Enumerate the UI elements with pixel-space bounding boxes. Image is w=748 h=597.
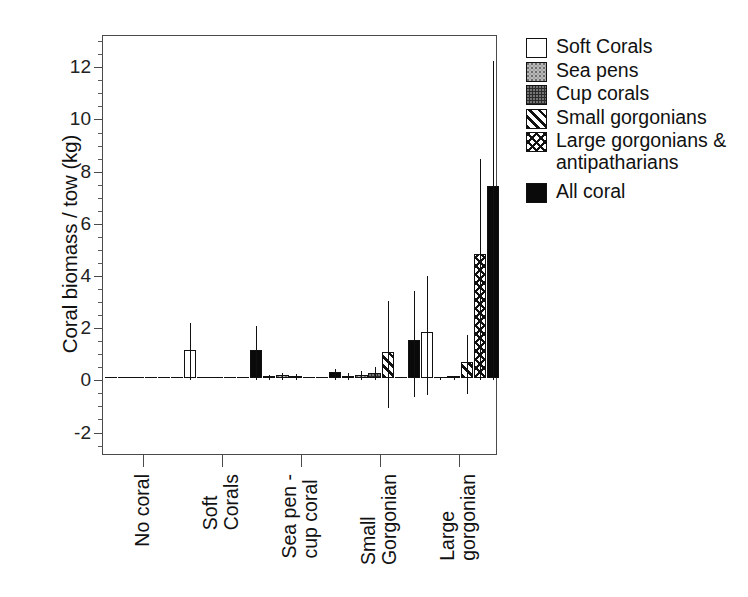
legend-item: Sea pens [526,60,741,82]
y-tick-minor [98,41,103,42]
bar [118,377,131,378]
y-tick-major [94,380,103,381]
y-tick-major [94,172,103,173]
y-tick-minor [98,80,103,81]
error-bar [282,373,283,381]
x-tick-label: Sea pen -cup coral [279,474,321,559]
x-tick [380,454,381,467]
y-tick-minor [98,263,103,264]
y-tick-minor [98,446,103,447]
coral-biomass-chart: Coral biomass / tow (kg) -2024681012 No … [0,0,748,597]
legend-item: Large gorgonians & antipatharians [526,130,741,174]
plot-area: -2024681012 No coralSoftCoralsSea pen -c… [102,35,497,455]
x-tick [143,454,144,467]
y-tick-minor [98,302,103,303]
y-tick-minor [98,289,103,290]
y-tick-minor [98,106,103,107]
bar [197,377,210,378]
legend-label: All coral [556,181,625,203]
bar [105,377,118,378]
y-tick-major [94,67,103,68]
legend-item: All coral [526,181,741,203]
legend-item: Small gorgonians [526,107,741,129]
y-tick-minor [98,146,103,147]
y-tick-label: 4 [80,265,91,287]
bar [303,377,316,378]
error-bar [375,367,376,380]
y-tick-label: 8 [80,161,91,183]
x-tick-label: SmallGorgonian [358,474,400,565]
error-bar [190,323,191,380]
bar [395,377,408,378]
diagonal-hatch-square-icon [526,109,547,129]
error-bar [335,369,336,380]
error-bar [480,159,481,381]
y-tick-label: 12 [70,56,91,78]
bar [171,377,184,378]
y-tick-minor [98,54,103,55]
legend-label: Soft Corals [556,36,652,58]
bar [131,377,144,378]
y-tick-label: 0 [80,369,91,391]
x-tick [222,454,223,467]
y-tick-major [94,276,103,277]
legend-label: Small gorgonians [556,107,707,129]
y-tick-label: -2 [74,422,91,444]
error-bar [256,326,257,381]
error-bar [440,378,441,381]
error-bar [454,376,455,380]
error-bar [493,61,494,381]
bar [224,377,237,378]
y-tick-label: 6 [80,213,91,235]
y-tick-label: 2 [80,317,91,339]
x-tick-label: Largegorgonian [437,474,479,561]
white-square-icon [526,38,547,58]
bar [210,377,223,378]
y-tick-minor [98,354,103,355]
dark-stipple-square-icon [526,85,547,105]
legend: Soft CoralsSea pensCup coralsSmall gorgo… [526,36,741,204]
y-tick-minor [98,159,103,160]
y-tick-minor [98,341,103,342]
bar [158,377,171,378]
x-tick-label: No coral [132,474,153,547]
y-tick-minor [98,211,103,212]
y-tick-minor [98,419,103,420]
y-tick-minor [98,315,103,316]
y-tick-major [94,433,103,434]
y-tick-minor [98,133,103,134]
cross-hatch-square-icon [526,132,547,152]
error-bar [388,301,389,408]
bar [316,377,329,378]
x-tick [301,454,302,467]
legend-label: Large gorgonians & antipatharians [556,130,726,174]
legend-label: Sea pens [556,60,638,82]
y-tick-minor [98,393,103,394]
legend-item: Cup corals [526,83,741,105]
error-bar [414,291,415,396]
y-tick-minor [98,406,103,407]
y-tick-major [94,328,103,329]
y-tick-major [94,119,103,120]
black-square-icon [526,183,547,203]
error-bar [361,371,362,380]
y-tick-minor [98,198,103,199]
error-bar [296,374,297,381]
x-tick [459,454,460,467]
y-tick-minor [98,367,103,368]
y-tick-minor [98,250,103,251]
y-tick-major [94,224,103,225]
legend-item: Soft Corals [526,36,741,58]
y-tick-label: 10 [70,108,91,130]
bar [237,377,250,378]
error-bar [348,373,349,381]
y-tick-minor [98,237,103,238]
x-tick-label: SoftCorals [200,474,242,530]
legend-label: Cup corals [556,83,649,105]
light-stipple-square-icon [526,62,547,82]
bar [145,377,158,378]
y-tick-minor [98,185,103,186]
y-tick-minor [98,93,103,94]
error-bar [467,335,468,393]
error-bar [269,375,270,381]
